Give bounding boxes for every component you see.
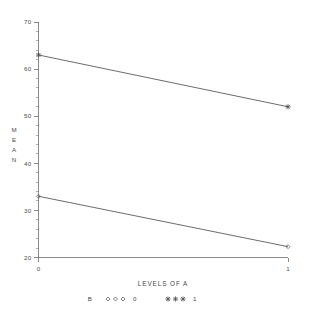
- y-axis-ticks: [34, 22, 39, 258]
- data-series: [37, 194, 291, 248]
- legend-entry-label: 1: [193, 295, 197, 302]
- plot-canvas: 706050403020 01 MEAN LEVELS OF A B01: [0, 0, 310, 315]
- legend-title: B: [88, 295, 93, 302]
- y-axis-title: MEAN: [11, 126, 17, 163]
- data-point-marker: [106, 297, 110, 301]
- y-axis-tick-labels: 706050403020: [24, 18, 32, 261]
- data-point-marker: [173, 296, 178, 301]
- data-point-marker: [114, 297, 118, 301]
- data-point-marker: [36, 52, 41, 57]
- y-axis-title-char: A: [12, 146, 17, 153]
- data-point-marker: [165, 296, 170, 301]
- x-axis-ticks: [39, 258, 289, 263]
- data-series-layer: [36, 52, 291, 248]
- interaction-plot-figure: 706050403020 01 MEAN LEVELS OF A B01: [0, 0, 310, 315]
- y-tick-label: 60: [24, 65, 32, 72]
- legend-entry[interactable]: 0: [106, 295, 137, 302]
- x-axis-title: LEVELS OF A: [138, 280, 188, 287]
- y-axis-title-char: N: [12, 156, 16, 163]
- legend-entry[interactable]: 1: [165, 295, 197, 302]
- x-axis-tick-labels: 01: [37, 265, 291, 272]
- data-point-marker: [180, 296, 185, 301]
- data-point-marker: [285, 104, 290, 109]
- y-tick-label: 50: [24, 112, 32, 119]
- y-tick-label: 40: [24, 160, 32, 167]
- x-tick-label: 1: [286, 265, 290, 272]
- data-point-marker: [121, 297, 125, 301]
- y-axis-title-char: M: [11, 126, 16, 133]
- y-tick-label: 20: [24, 254, 32, 261]
- x-tick-label: 0: [37, 265, 41, 272]
- series-line: [39, 55, 289, 107]
- chart-legend: B01: [88, 295, 197, 302]
- y-tick-label: 70: [24, 18, 32, 25]
- y-axis-title-char: E: [12, 136, 16, 143]
- data-series: [36, 52, 291, 109]
- legend-entry-label: 0: [133, 295, 137, 302]
- series-line: [39, 196, 289, 246]
- y-tick-label: 30: [24, 207, 32, 214]
